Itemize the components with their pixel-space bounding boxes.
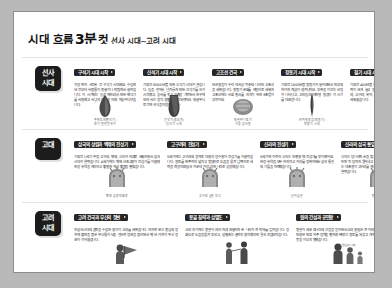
event-card[interactable]: 구석기 시대 시작가장 먼저 시작된 건 구석기 시대예요. 수십만 년 전부터… — [74, 61, 136, 127]
era-badge-line1: 고려 — [42, 214, 53, 222]
event-card[interactable]: 삼국의 성립과 백제의 전성기기원전 1세기 무렵 고구려, 백제, 신라가 차… — [74, 133, 160, 199]
event-card[interactable]: 청동기 시대 시작기원전 1000년쯤 청동기가 들어오면서 빈부의 차이와 계… — [281, 61, 343, 127]
event-card-header: 원의 간섭과 공민왕 — [296, 214, 341, 221]
crown-icon — [260, 163, 334, 189]
row-divider — [22, 129, 368, 130]
bronze-dagger-icon — [281, 91, 343, 117]
event-card[interactable]: 고조선 건국단군왕검이 우리 역사상 최초의 나라인 고조선을 세웠습니다. 청… — [212, 61, 274, 127]
crown-icon — [167, 163, 253, 189]
era-badge-line2: 시대 — [36, 224, 60, 234]
event-card-header: 고려 건국과 무신의 정변 — [74, 214, 128, 221]
era-badge-line1: 고대 — [42, 141, 53, 149]
era-badge-line2: 시대 — [36, 79, 60, 89]
warrior-icon — [74, 238, 178, 264]
row-divider — [22, 57, 368, 58]
three-figures-icon — [296, 238, 374, 264]
figure-caption: 세형 동검 철기 시대 — [350, 118, 374, 126]
figure-caption: 비파형 동검(청동기) 청동기 시대 — [281, 118, 343, 126]
figure-caption: 발해 석등 — [341, 194, 374, 198]
event-card[interactable]: 몽골 침략과 삼별초고려 후기에는 몽골이 여러 차례 쳐들어와 온 나라가 큰… — [185, 206, 289, 273]
pottery-icon — [212, 91, 274, 117]
event-card-header: 청동기 시대 시작 — [281, 69, 322, 76]
event-card[interactable]: 신라의 삼국 통일과 발해신라는 당나라와 손을 잡고 백제와 고구려를 차례로… — [341, 133, 374, 199]
event-card-header: 삼국의 성립과 백제의 전성기 — [74, 141, 136, 148]
title-number: 3분 — [74, 31, 98, 44]
page-title: 시대 흐름3분컷선사 시대~고려 시대 — [28, 28, 364, 44]
event-card[interactable]: 원의 간섭과 공민왕몽골이 세운 원나라의 간섭을 받으면서 고려 왕실은 큰 … — [296, 206, 374, 273]
event-card-header: 철기 시대 시작 — [350, 69, 374, 76]
two-figures-icon — [185, 238, 289, 264]
event-card[interactable]: 신라의 전성기6세기에 이르러 신라는 진흥왕 때 전성기를 맞이했어요. 한강… — [260, 133, 334, 199]
figure-caption: 간석기(돌도끼) 신석기 시대 — [143, 118, 205, 126]
crown-icon — [74, 163, 160, 189]
event-card[interactable]: 고려 건국과 무신의 정변후삼국시대의 혼란을 수습한 왕건이 고려를 세웠습니… — [74, 206, 178, 273]
event-card-header: 고구려의 전성기 — [167, 141, 207, 148]
iron-blade-icon — [350, 91, 374, 117]
event-card-header: 신석기 시대 시작 — [143, 69, 184, 76]
event-card-body: 고려 후기에는 몽골이 여러 차례 쳐들어와 온 나라가 큰 피해를 입었습니다… — [185, 228, 289, 238]
figure-caption: 고구려 금관 장식 — [167, 194, 253, 198]
hand-axe-icon — [74, 91, 136, 117]
title-subtitle: 선사 시대~고려 시대 — [108, 37, 175, 44]
title-main-2: 컷 — [98, 33, 109, 44]
event-card[interactable]: 신석기 시대 시작기원전 8000년쯤 되면 신석기 시대가 열립니다. 돌을 … — [143, 61, 205, 127]
event-card-header: 신라의 삼국 통일과 발해 — [341, 141, 374, 148]
era-badge: 고대 — [35, 138, 61, 160]
title-main: 시대 흐름 — [28, 33, 74, 44]
era-card-strip: 고려 건국과 무신의 정변후삼국시대의 혼란을 수습한 왕건이 고려를 세웠습니… — [72, 206, 374, 273]
era-badge: 선사시대 — [35, 66, 61, 91]
row-divider — [22, 202, 368, 203]
event-card-header: 고조선 건국 — [212, 69, 244, 76]
era-card-strip: 삼국의 성립과 백제의 전성기기원전 1세기 무렵 고구려, 백제, 신라가 차… — [72, 133, 374, 199]
polished-axe-icon — [143, 91, 205, 117]
era-badge: 고려시대 — [35, 211, 61, 236]
era-badge-line1: 선사 — [42, 69, 53, 77]
era-row-goryeo: 고려시대고려 건국과 무신의 정변후삼국시대의 혼란을 수습한 왕건이 고려를 … — [14, 202, 374, 273]
figure-caption: 백제 금동대향로 — [74, 194, 160, 198]
crown-icon — [341, 163, 374, 189]
figure-caption: 신라 금관 — [260, 194, 334, 198]
infographic-page: 시대 흐름3분컷선사 시대~고려 시대 선사시대구석기 시대 시작가장 먼저 시… — [13, 11, 375, 273]
era-row-ancient: 고대삼국의 성립과 백제의 전성기기원전 1세기 무렵 고구려, 백제, 신라가… — [14, 129, 374, 199]
event-card-header: 구석기 시대 시작 — [74, 69, 115, 76]
figure-caption: 빗살무늬 토기 서울 암사동 — [212, 118, 274, 126]
era-row-prehistoric: 선사시대구석기 시대 시작가장 먼저 시작된 건 구석기 시대예요. 수십만 년… — [14, 57, 374, 127]
event-card-header: 몽골 침략과 삼별초 — [185, 214, 230, 221]
figure-caption: 주먹도끼(뗀석기) 경기 연천 전곡리 — [74, 118, 136, 126]
event-card-header: 신라의 전성기 — [260, 141, 296, 148]
event-card[interactable]: 고구려의 전성기5세기에는 고구려의 광개토 대왕과 장수왕이 전성기를 이끌었… — [167, 133, 253, 199]
era-card-strip: 구석기 시대 시작가장 먼저 시작된 건 구석기 시대예요. 수십만 년 전부터… — [72, 61, 374, 127]
event-card[interactable]: 철기 시대 시작기원전 400년쯤 철기가 보급되면서 농업 생산력이 크게 늘… — [350, 61, 374, 127]
